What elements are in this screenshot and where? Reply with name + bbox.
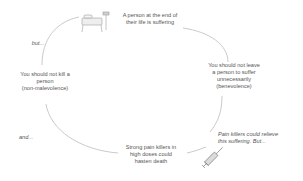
arrow-right-to-bottomright [210,96,222,132]
node-left: You should not kill a person (non-malevo… [10,71,80,92]
node-text-line: this suffering. But... [218,138,298,145]
node-text-line: a person to suffer [196,69,272,76]
node-right: You should not leave a person to suffer … [196,62,272,90]
syringe-icon [201,145,224,168]
node-text-line: (non-malevolence) [10,85,80,92]
node-text-line: Pain killers could relieve [218,131,298,138]
node-text-line: hasten death [118,158,184,165]
node-text-line: person [10,78,80,85]
arrow-bottom-to-left [46,104,118,153]
node-text-line: (benevolence) [196,83,272,90]
node-bottom-right: Pain killers could relieve this sufferin… [218,131,298,145]
node-text-line: unnecessarily [196,76,272,83]
node-bottom: Strong pain killers in high doses could … [118,144,184,165]
node-text-line: You should not leave [196,62,272,69]
node-text-line: A person at the end of [112,12,188,19]
node-text-line: Strong pain killers in [118,144,184,151]
arrow-bottomright-to-bottom [187,147,206,153]
node-top: A person at the end of their life is suf… [112,12,188,26]
node-text-line: their life is suffering [112,19,188,26]
connector-label-and: and... [16,134,36,141]
hospital-bed-icon [82,12,109,32]
node-text-line: You should not kill a [10,71,80,78]
arrow-top-to-right [183,28,228,62]
connector-label-but: but... [28,40,48,47]
node-text-line: high doses could [118,151,184,158]
